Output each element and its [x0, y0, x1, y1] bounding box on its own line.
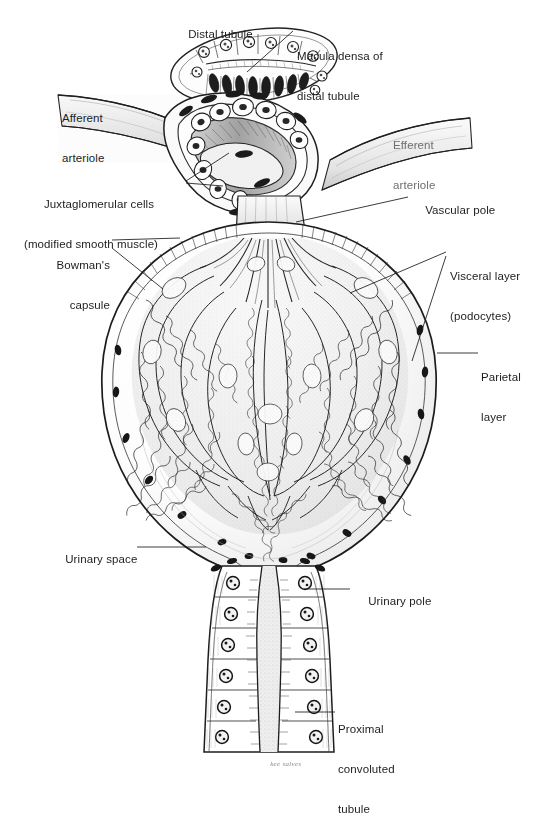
label-macula-densa: Macula densa of distal tubule: [297, 24, 383, 130]
label-bowmans-line2: capsule: [36, 299, 110, 312]
label-visceral-layer: Visceral layer (podocytes): [450, 244, 520, 350]
label-distal-tubule-text: Distal tubule: [188, 28, 253, 40]
label-afferent-line2: arteriole: [62, 152, 104, 165]
label-bowmans-capsule: Bowman's capsule: [36, 233, 110, 339]
label-visceral-line1: Visceral layer: [450, 270, 520, 283]
label-urinary-pole-text: Urinary pole: [368, 595, 431, 607]
label-urinary-space-text: Urinary space: [65, 553, 137, 565]
label-proximal-line3: tubule: [338, 803, 395, 816]
label-efferent-line1: Efferent: [393, 139, 435, 152]
label-vascular-pole-text: Vascular pole: [425, 204, 495, 216]
label-proximal-convoluted-tubule: Proximal convoluted tubule: [338, 697, 395, 817]
label-distal-tubule: Distal tubule: [175, 15, 253, 55]
artist-signature-text: kee salves: [270, 760, 301, 768]
label-parietal-line2: layer: [481, 411, 521, 424]
artist-signature: kee salves: [262, 745, 301, 785]
label-visceral-line2: (podocytes): [450, 310, 520, 323]
label-parietal-layer: Parietal layer: [481, 345, 521, 451]
label-proximal-line2: convoluted: [338, 763, 395, 776]
label-urinary-space: Urinary space: [52, 540, 137, 580]
label-vascular-pole: Vascular pole: [412, 191, 495, 231]
label-macula-densa-line2: distal tubule: [297, 90, 383, 103]
label-parietal-line1: Parietal: [481, 371, 521, 384]
vascular-pole-leader: [296, 197, 408, 222]
label-bowmans-line1: Bowman's: [36, 259, 110, 272]
label-urinary-pole: Urinary pole: [355, 582, 431, 622]
label-jg-line1: Juxtaglomerular cells: [24, 198, 158, 211]
label-macula-densa-line1: Macula densa of: [297, 50, 383, 63]
label-proximal-line1: Proximal: [338, 723, 395, 736]
label-afferent-line1: Afferent: [62, 112, 104, 125]
proximal-convoluted-tubule: [204, 557, 334, 752]
